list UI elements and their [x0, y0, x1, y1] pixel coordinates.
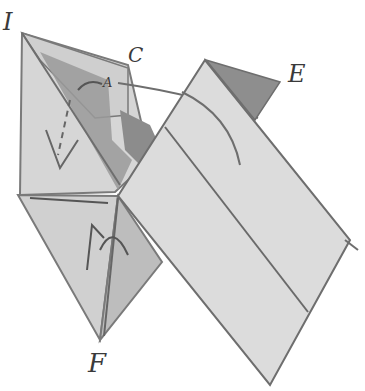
folded-paper-diagram: I C A E F [0, 0, 365, 391]
label-E: E [288, 62, 306, 86]
label-F: F [88, 350, 106, 376]
folded-paper-drawing [0, 0, 365, 391]
right-strip-panel [118, 60, 358, 385]
label-A: A [103, 76, 112, 89]
label-C: C [128, 45, 143, 65]
label-I: I [3, 10, 12, 34]
